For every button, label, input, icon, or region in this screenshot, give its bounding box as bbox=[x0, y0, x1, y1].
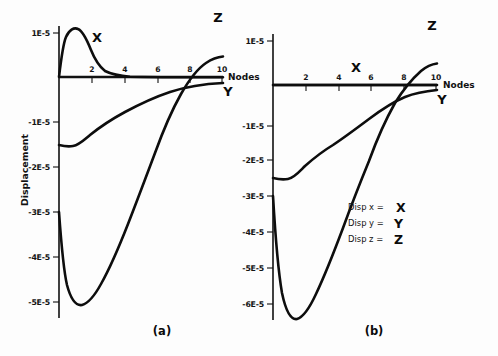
panel-a-caption: (a) bbox=[153, 324, 171, 338]
panel-a-x-axis-title: Nodes bbox=[228, 72, 260, 82]
panel-b-xtick-3: 8 bbox=[401, 73, 406, 82]
panel-b-curve-z bbox=[273, 64, 437, 320]
panel-b-curve-y bbox=[273, 90, 437, 179]
panel-b-label-z: Z bbox=[427, 18, 436, 33]
panel-b-ytick-5: -5E-5 bbox=[242, 264, 264, 273]
panel-b-caption: (b) bbox=[365, 324, 384, 338]
panel-b-y-ticks bbox=[267, 41, 273, 304]
panel-a-label-x: X bbox=[92, 30, 102, 45]
panel-b-ytick-2: -2E-5 bbox=[242, 156, 264, 165]
panel-b-xtick-4: 10 bbox=[431, 73, 442, 82]
panel-a-ytick-2: -2E-5 bbox=[28, 163, 50, 172]
panel-a-curve-z bbox=[59, 57, 223, 306]
panel-a-label-z: Z bbox=[213, 10, 222, 25]
panel-b-xtick-1: 4 bbox=[336, 73, 341, 82]
panel-a-ytick-1: -1E-5 bbox=[28, 118, 50, 127]
panel-a-y-axis-title: Displacement bbox=[19, 133, 30, 206]
legend-entry-x-text: Disp x = bbox=[348, 202, 384, 212]
panel-b-ytick-6: -6E-5 bbox=[242, 300, 264, 309]
panel-b-xtick-0: 2 bbox=[303, 73, 308, 82]
panel-b-ytick-1: -1E-5 bbox=[242, 122, 264, 131]
panel-b-ytick-0: 1E-5 bbox=[245, 37, 264, 46]
panel-a-xtick-0: 2 bbox=[89, 65, 94, 74]
panel-a-ytick-4: -4E-5 bbox=[28, 253, 50, 262]
panel-b-ytick-4: -4E-5 bbox=[242, 228, 264, 237]
panel-b-xtick-2: 6 bbox=[368, 73, 373, 82]
panel-a-xtick-1: 4 bbox=[122, 65, 127, 74]
panel-a: 1E-5 -1E-5 -2E-5 -3E-5 -4E-5 -5E-5 2 4 6… bbox=[19, 10, 260, 338]
panel-a-y-ticks bbox=[53, 33, 59, 302]
dual-panel-line-chart: 1E-5 -1E-5 -2E-5 -3E-5 -4E-5 -5E-5 2 4 6… bbox=[0, 0, 498, 356]
panel-b-ytick-3: -3E-5 bbox=[242, 192, 264, 201]
figure-container: 1E-5 -1E-5 -2E-5 -3E-5 -4E-5 -5E-5 2 4 6… bbox=[0, 0, 498, 356]
panel-a-xtick-2: 6 bbox=[155, 65, 160, 74]
legend-entry-x-symbol: X bbox=[396, 200, 406, 215]
legend-entry-z-symbol: Z bbox=[394, 232, 403, 247]
panel-a-ytick-0: 1E-5 bbox=[31, 29, 50, 38]
panel-a-xtick-3: 8 bbox=[187, 65, 192, 74]
panel-a-ytick-5: -5E-5 bbox=[28, 298, 50, 307]
legend-entry-y-text: Disp y = bbox=[348, 218, 384, 228]
panel-b-legend: Disp x = X Disp y = Y Disp z = Z bbox=[348, 200, 406, 247]
panel-b: 1E-5 -1E-5 -2E-5 -3E-5 -4E-5 -5E-5 -6E-5… bbox=[242, 18, 474, 338]
panel-a-ytick-3: -3E-5 bbox=[28, 208, 50, 217]
panel-b-label-y: Y bbox=[436, 92, 447, 107]
panel-b-label-x: X bbox=[351, 60, 361, 75]
panel-a-curve-y bbox=[59, 83, 223, 146]
panel-a-xtick-4: 10 bbox=[217, 65, 228, 74]
panel-a-label-y: Y bbox=[222, 84, 233, 99]
panel-b-x-axis-title: Nodes bbox=[443, 80, 475, 90]
legend-entry-y-symbol: Y bbox=[393, 216, 404, 231]
legend-entry-z-text: Disp z = bbox=[348, 234, 383, 244]
